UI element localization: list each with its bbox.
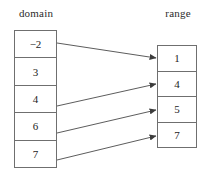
- range-cell: 4: [158, 72, 196, 98]
- mapping-diagram-figure: domain range −2 3 4 6 7 1 4 5 7: [0, 0, 211, 177]
- domain-cell: 7: [15, 141, 56, 167]
- domain-set-box: −2 3 4 6 7: [14, 30, 57, 168]
- domain-cell: 4: [15, 86, 56, 113]
- mapping-arrow: [57, 43, 156, 58]
- domain-cell: 6: [15, 113, 56, 140]
- domain-cell: 3: [15, 58, 56, 85]
- range-set-box: 1 4 5 7: [157, 45, 197, 148]
- domain-column-label: domain: [0, 7, 72, 19]
- mapping-arrow: [57, 136, 156, 160]
- domain-cell: −2: [15, 31, 56, 58]
- range-cell: 1: [158, 46, 196, 72]
- range-cell: 7: [158, 123, 196, 148]
- range-column-label: range: [142, 7, 211, 19]
- mapping-arrow: [57, 84, 156, 106]
- range-cell: 5: [158, 97, 196, 123]
- mapping-arrow: [57, 110, 156, 133]
